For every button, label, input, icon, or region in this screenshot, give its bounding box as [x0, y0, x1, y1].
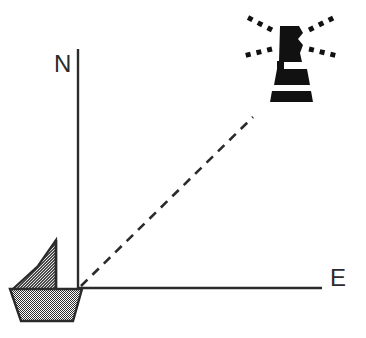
lighthouse-neck — [277, 61, 284, 70]
lighthouse-tower-band — [274, 69, 310, 85]
sailboat-group — [10, 240, 82, 321]
east-axis-label: E — [330, 266, 346, 290]
lighthouse-group — [243, 16, 338, 102]
bearing-line-group — [81, 117, 253, 286]
north-axis-label: N — [54, 52, 71, 76]
ray-lower-right-icon — [309, 49, 338, 56]
ray-upper-right-icon — [309, 16, 337, 30]
bearing-sight-line — [81, 117, 253, 286]
ray-lower-left-icon — [243, 49, 272, 56]
lighthouse-lamp-house — [279, 26, 303, 62]
boat-hull — [10, 289, 82, 321]
boat-sail — [13, 240, 56, 289]
bearing-diagram-figure: N E — [0, 0, 366, 338]
lighthouse-base-band — [270, 91, 313, 102]
ray-upper-left-icon — [245, 16, 272, 30]
